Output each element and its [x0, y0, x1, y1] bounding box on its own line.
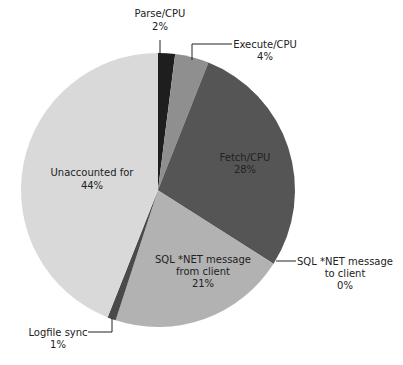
- label-to-client-line2: to client: [325, 268, 366, 279]
- label-unaccounted-pct: 44%: [81, 180, 103, 191]
- callout-to-client: SQL *NET message to client 0%: [276, 256, 393, 291]
- label-from-client-line2: from client: [176, 266, 230, 277]
- pie-slices: [21, 53, 295, 327]
- label-unaccounted-name: Unaccounted for: [51, 167, 135, 178]
- label-logfile-name: Logfile sync: [28, 327, 87, 338]
- label-to-client-line1: SQL *NET message: [297, 256, 393, 267]
- label-from-client-pct: 21%: [192, 278, 214, 289]
- label-execute-name: Execute/CPU: [233, 39, 297, 50]
- label-from-client-line1: SQL *NET message: [155, 254, 251, 265]
- callout-execute: Execute/CPU 4%: [192, 39, 297, 62]
- callout-logfile: Logfile sync 1%: [28, 318, 112, 350]
- label-logfile-pct: 1%: [50, 339, 66, 350]
- label-parse-name: Parse/CPU: [135, 8, 186, 19]
- label-fetch-name: Fetch/CPU: [220, 152, 271, 163]
- label-parse-pct: 2%: [152, 21, 168, 32]
- label-to-client-pct: 0%: [337, 280, 353, 291]
- label-execute-pct: 4%: [257, 51, 273, 62]
- label-fetch-pct: 28%: [234, 164, 256, 175]
- callout-parse: Parse/CPU 2%: [135, 8, 186, 58]
- pie-chart: Parse/CPU 2% Execute/CPU 4% Fetch/CPU 28…: [0, 0, 403, 365]
